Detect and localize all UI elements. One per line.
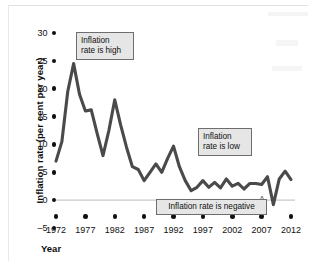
inflation-rate-chart-figure: Inflation rate (per cent per year) Year …: [0, 0, 315, 269]
chart-plot-area: [0, 0, 315, 269]
annotation-low-line2: rate is low: [203, 142, 247, 152]
annotation-negative-text: Inflation rate is negative: [161, 202, 262, 212]
annotation-inflation-low: Inflation rate is low: [198, 128, 252, 156]
annotation-high-line1: Inflation: [81, 36, 129, 46]
annotation-high-line2: rate is high: [81, 46, 129, 56]
annotation-low-line1: Inflation: [203, 132, 247, 142]
annotation-inflation-high: Inflation rate is high: [76, 32, 134, 60]
annotation-inflation-negative: Inflation rate is negative: [156, 199, 267, 215]
inflation-rate-line: [56, 64, 291, 205]
